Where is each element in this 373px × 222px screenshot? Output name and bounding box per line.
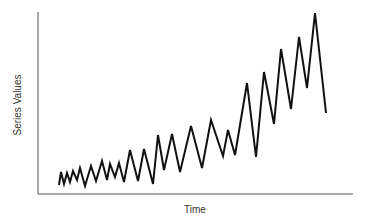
line-chart: Time Series Values bbox=[0, 0, 373, 222]
series-line bbox=[59, 13, 326, 186]
x-axis-label: Time bbox=[184, 204, 206, 215]
y-axis-label: Series Values bbox=[12, 75, 23, 136]
